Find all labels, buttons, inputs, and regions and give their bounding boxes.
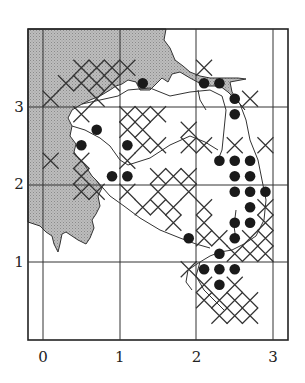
cross-marker [242, 308, 258, 324]
cross-marker [150, 106, 166, 122]
cross-marker [119, 122, 135, 138]
dot-marker [245, 186, 256, 197]
dot-marker [137, 78, 148, 89]
dot-marker [214, 155, 225, 166]
dot-marker [199, 78, 210, 89]
dot-marker [245, 202, 256, 213]
cross-marker [150, 199, 166, 215]
dot-marker [229, 264, 240, 275]
y-tick-label: 2 [14, 175, 24, 193]
cross-marker [227, 308, 243, 324]
cross-marker [211, 230, 227, 246]
dot-marker [214, 248, 225, 259]
dot-marker [214, 279, 225, 290]
x-axis-ticks: 0123 [38, 348, 278, 366]
cross-marker [196, 230, 212, 246]
cross-marker [227, 277, 243, 293]
cross-marker [211, 308, 227, 324]
dot-marker [107, 171, 118, 182]
dot-marker [229, 186, 240, 197]
dot-marker [245, 171, 256, 182]
cross-marker [196, 215, 212, 231]
cross-marker [181, 122, 197, 138]
dot-marker [199, 264, 210, 275]
dot-marker [214, 78, 225, 89]
dot-marker [245, 155, 256, 166]
dot-markers [76, 78, 271, 290]
cross-marker [181, 184, 197, 200]
dot-marker [229, 109, 240, 120]
distribution-map: 0123 123 [0, 0, 305, 383]
cross-marker [257, 246, 273, 262]
cross-marker [150, 168, 166, 184]
shaded-sea-area [28, 29, 246, 252]
dot-marker [76, 140, 87, 151]
cross-marker [165, 199, 181, 215]
cross-marker [135, 106, 151, 122]
dot-marker [91, 124, 102, 135]
cross-marker [181, 261, 197, 277]
x-tick-label: 1 [115, 348, 125, 366]
cross-marker [196, 292, 212, 308]
dot-marker [122, 140, 133, 151]
cross-marker [181, 168, 197, 184]
cross-marker [257, 215, 273, 231]
x-tick-label: 2 [192, 348, 202, 366]
dot-marker [260, 186, 271, 197]
cross-marker [150, 184, 166, 200]
y-tick-label: 3 [14, 98, 24, 116]
boundary-lines [72, 88, 266, 310]
cross-marker [227, 137, 243, 153]
dot-marker [214, 264, 225, 275]
dot-marker [229, 233, 240, 244]
dot-marker [229, 171, 240, 182]
cross-marker [242, 91, 258, 107]
x-tick-label: 0 [38, 348, 48, 366]
cross-marker [257, 137, 273, 153]
cross-marker [135, 137, 151, 153]
cross-marker [165, 215, 181, 231]
cross-marker [119, 106, 135, 122]
cross-marker [242, 230, 258, 246]
y-axis-ticks: 123 [14, 98, 24, 271]
dot-marker [229, 93, 240, 104]
y-tick-label: 1 [14, 253, 24, 271]
dot-marker [229, 155, 240, 166]
cross-marker [150, 137, 166, 153]
cross-marker [196, 199, 212, 215]
dot-marker [183, 233, 194, 244]
cross-marker [227, 292, 243, 308]
cross-marker [242, 246, 258, 262]
dot-marker [245, 217, 256, 228]
dot-marker [229, 217, 240, 228]
cross-marker [165, 168, 181, 184]
dot-marker [122, 171, 133, 182]
cross-marker [119, 184, 135, 200]
cross-marker [135, 122, 151, 138]
cross-marker [242, 292, 258, 308]
cross-marker [196, 60, 212, 76]
x-tick-label: 3 [268, 348, 278, 366]
cross-marker [73, 106, 89, 122]
cross-marker [257, 230, 273, 246]
cross-marker [181, 137, 197, 153]
cross-marker [135, 199, 151, 215]
